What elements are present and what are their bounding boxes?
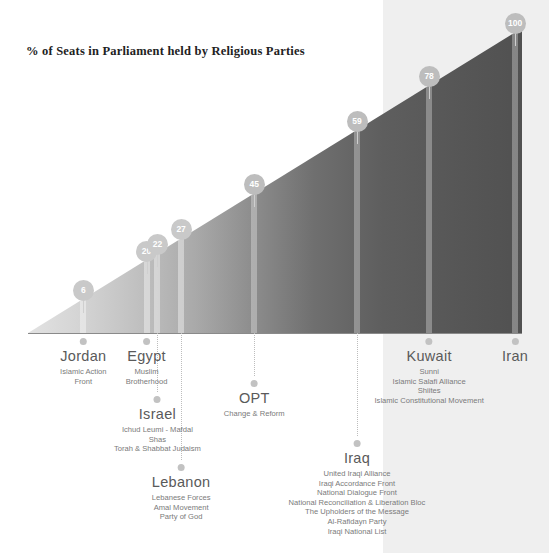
value-band-lebanon	[178, 238, 184, 333]
bubble-stem-iraq	[357, 130, 358, 144]
country-name: Lebanon	[152, 474, 211, 491]
country-name: Israel	[114, 406, 201, 423]
bubble-stem-israel	[157, 253, 158, 267]
party-name: Sunni	[374, 367, 483, 377]
country-name: Egypt	[126, 348, 168, 365]
party-list: Islamic ActionFront	[60, 367, 106, 386]
guide-line-iraq	[357, 333, 358, 436]
party-name: United Iraqi Alliance	[289, 469, 426, 479]
country-label-jordan[interactable]: JordanIslamic ActionFront	[60, 338, 106, 386]
bubble-stem-jordan	[83, 299, 84, 313]
party-name: Brotherhood	[126, 377, 168, 387]
country-name: Iran	[502, 348, 528, 365]
gradient-ramp	[28, 28, 522, 333]
value-bubble-kuwait: 78	[419, 66, 440, 87]
party-name: Al-Rafidayn Party	[289, 517, 426, 527]
value-bubble-jordan: 6	[73, 280, 94, 301]
value-band-iran	[512, 32, 518, 333]
bubble-stem-egypt	[147, 260, 148, 274]
country-label-iran[interactable]: Iran	[502, 338, 528, 365]
party-name: Change & Reform	[224, 409, 285, 419]
party-name: Muslim	[126, 367, 168, 377]
guide-line-opt	[254, 333, 255, 376]
party-name: Shas	[114, 435, 201, 445]
party-name: National Dialogue Front	[289, 488, 426, 498]
party-name: Amal Movement	[152, 503, 211, 513]
country-marker-dot	[251, 380, 258, 387]
value-band-opt	[251, 193, 257, 333]
country-marker-dot	[353, 440, 360, 447]
country-name: Jordan	[60, 348, 106, 365]
value-band-iraq	[354, 130, 360, 333]
bubble-stem-lebanon	[181, 238, 182, 252]
country-name: Kuwait	[374, 348, 483, 365]
party-name: National Reconciliation & Liberation Blo…	[289, 498, 426, 508]
value-bubble-lebanon: 27	[171, 219, 192, 240]
country-label-egypt[interactable]: EgyptMuslimBrotherhood	[126, 338, 168, 386]
party-name: Front	[60, 377, 106, 387]
party-list: Ichud Leumi - MafdalShasTorah & Shabbat …	[114, 425, 201, 454]
party-list: United Iraqi AllianceIraqi Accordance Fr…	[289, 469, 426, 536]
value-bubble-israel: 22	[147, 234, 168, 255]
party-name: Islamic Salafi Alliance	[374, 377, 483, 387]
party-name: Ichud Leumi - Mafdal	[114, 425, 201, 435]
chart-plot-area	[28, 28, 522, 333]
value-bubble-iraq: 59	[347, 111, 368, 132]
party-list: Change & Reform	[224, 409, 285, 419]
baseline-axis	[28, 333, 522, 334]
party-list: MuslimBrotherhood	[126, 367, 168, 386]
value-band-kuwait	[426, 85, 432, 333]
party-name: Islamic Constitutional Movement	[374, 396, 483, 406]
country-name: Iraq	[289, 450, 426, 467]
country-name: OPT	[224, 390, 285, 407]
party-name: Torah & Shabbat Judaism	[114, 444, 201, 454]
party-name: Islamic Action	[60, 367, 106, 377]
party-name: Iraqi Accordance Front	[289, 479, 426, 489]
party-name: Party of God	[152, 512, 211, 522]
party-name: Iraqi National List	[289, 527, 426, 537]
country-label-israel[interactable]: IsraelIchud Leumi - MafdalShasTorah & Sh…	[114, 396, 201, 454]
country-label-lebanon[interactable]: LebanonLebanese ForcesAmal MovementParty…	[152, 464, 211, 522]
country-marker-dot	[426, 338, 433, 345]
party-list: Lebanese ForcesAmal MovementParty of God	[152, 493, 211, 522]
bubble-stem-kuwait	[429, 85, 430, 99]
party-name: Shiites	[374, 386, 483, 396]
country-marker-dot	[178, 464, 185, 471]
party-list: SunniIslamic Salafi AllianceShiitesIslam…	[374, 367, 483, 405]
party-name: Lebanese Forces	[152, 493, 211, 503]
country-label-kuwait[interactable]: KuwaitSunniIslamic Salafi AllianceShiite…	[374, 338, 483, 405]
country-marker-dot	[143, 338, 150, 345]
party-name: The Upholders of the Message	[289, 507, 426, 517]
value-bubble-iran: 100	[505, 13, 526, 34]
bubble-stem-opt	[254, 193, 255, 207]
bubble-stem-iran	[515, 32, 516, 46]
country-label-opt[interactable]: OPTChange & Reform	[224, 380, 285, 419]
country-marker-dot	[512, 338, 519, 345]
value-bubble-opt: 45	[244, 174, 265, 195]
country-label-iraq[interactable]: IraqUnited Iraqi AllianceIraqi Accordanc…	[289, 440, 426, 536]
country-marker-dot	[80, 338, 87, 345]
country-marker-dot	[154, 396, 161, 403]
